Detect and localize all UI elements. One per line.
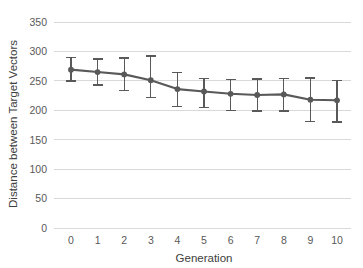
y-tick-labels: 050100150200250300350 xyxy=(29,16,47,234)
x-tick-label: 10 xyxy=(331,234,343,246)
x-tick-label: 1 xyxy=(95,234,101,246)
y-tick-label: 0 xyxy=(41,222,47,234)
x-tick-label: 6 xyxy=(228,234,234,246)
chart-container: 050100150200250300350 012345678910 Dista… xyxy=(0,0,363,268)
data-point-marker xyxy=(254,92,260,98)
data-point-marker xyxy=(201,89,207,95)
y-tick-label: 50 xyxy=(35,192,47,204)
x-tick-label: 0 xyxy=(68,234,74,246)
data-point-marker xyxy=(121,71,127,77)
x-tick-label: 9 xyxy=(307,234,313,246)
data-point-marker xyxy=(68,67,74,73)
x-tick-labels: 012345678910 xyxy=(68,234,343,246)
data-point-marker xyxy=(95,69,101,75)
x-tick-label: 5 xyxy=(201,234,207,246)
data-point-marker xyxy=(308,97,314,103)
x-axis-title: Generation xyxy=(176,252,233,264)
gridlines xyxy=(54,22,351,228)
x-tick-label: 2 xyxy=(121,234,127,246)
y-tick-label: 150 xyxy=(29,134,47,146)
y-axis-title: Distance between Target Vectors xyxy=(7,40,19,208)
y-tick-label: 250 xyxy=(29,75,47,87)
x-tick-label: 3 xyxy=(148,234,154,246)
data-point-marker xyxy=(281,91,287,97)
data-point-marker xyxy=(228,91,234,97)
y-tick-label: 350 xyxy=(29,16,47,28)
line-chart: 050100150200250300350 012345678910 Dista… xyxy=(0,0,363,268)
y-tick-label: 200 xyxy=(29,104,47,116)
data-point-marker xyxy=(334,97,340,103)
data-point-marker xyxy=(148,77,154,83)
y-tick-label: 100 xyxy=(29,163,47,175)
x-tick-label: 7 xyxy=(254,234,260,246)
y-tick-label: 300 xyxy=(29,45,47,57)
data-point-marker xyxy=(175,86,181,92)
x-tick-label: 4 xyxy=(174,234,180,246)
x-tick-label: 8 xyxy=(281,234,287,246)
